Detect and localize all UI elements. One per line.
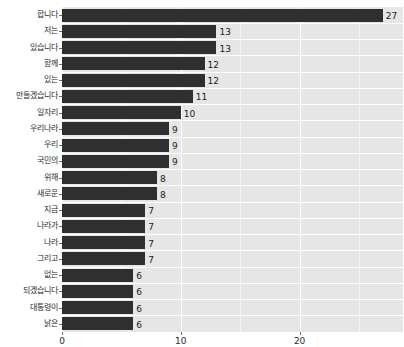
- bar: [62, 285, 133, 298]
- bar: [62, 74, 205, 87]
- bar: [62, 301, 133, 314]
- gridline-horizontal: [62, 104, 403, 105]
- gridline-horizontal: [62, 88, 403, 89]
- bar-value-label: 7: [148, 237, 154, 251]
- bar-value-label: 8: [160, 188, 166, 202]
- bar: [62, 171, 157, 184]
- bar: [62, 220, 145, 233]
- bar-value-label: 11: [196, 90, 207, 104]
- y-axis-tick-label: 나라가: [0, 221, 58, 231]
- bar-value-label: 13: [219, 42, 230, 56]
- bar: [62, 236, 145, 249]
- gridline-horizontal: [62, 218, 403, 219]
- bar: [62, 57, 205, 70]
- y-axis-tick-label: 위해: [0, 173, 58, 183]
- bar: [62, 25, 216, 38]
- gridline-horizontal: [62, 234, 403, 235]
- bar: [62, 252, 145, 265]
- bar: [62, 155, 169, 168]
- bar-value-label: 7: [148, 253, 154, 267]
- bar: [62, 317, 133, 330]
- y-axis-tick-label: 합니다: [0, 10, 58, 20]
- x-axis-tick-mark: [62, 332, 63, 335]
- bar-value-label: 6: [136, 269, 142, 283]
- bar: [62, 204, 145, 217]
- gridline-horizontal: [62, 299, 403, 300]
- x-axis-tick-mark: [181, 332, 182, 335]
- bar-value-label: 6: [136, 318, 142, 332]
- y-axis-tick-label: 만들겠습니다: [0, 91, 58, 101]
- bar-value-label: 12: [208, 58, 219, 72]
- gridline-horizontal: [62, 283, 403, 284]
- gridline-horizontal: [62, 169, 403, 170]
- y-axis-tick-label: 있는: [0, 75, 58, 85]
- bar-value-label: 13: [219, 25, 230, 39]
- bar: [62, 41, 216, 54]
- bar-value-label: 7: [148, 220, 154, 234]
- x-axis-tick-label: 0: [59, 336, 65, 347]
- bar: [62, 9, 383, 22]
- y-axis-tick-label: 국민의: [0, 156, 58, 166]
- bar-value-label: 8: [160, 172, 166, 186]
- y-axis-tick-label: 나라: [0, 238, 58, 248]
- y-axis-tick-label: 낡은: [0, 319, 58, 329]
- x-axis-tick-label: 10: [175, 336, 186, 347]
- bar-value-label: 7: [148, 204, 154, 218]
- x-axis-tick-mark: [300, 332, 301, 335]
- gridline-horizontal: [62, 137, 403, 138]
- gridline-horizontal: [62, 72, 403, 73]
- bar-value-label: 10: [184, 107, 195, 121]
- gridline-horizontal: [62, 120, 403, 121]
- y-axis-tick-label: 함께: [0, 59, 58, 69]
- gridline-horizontal: [62, 39, 403, 40]
- bar-value-label: 6: [136, 302, 142, 316]
- bar-value-label: 9: [172, 123, 178, 137]
- bar: [62, 122, 169, 135]
- gridline-horizontal: [62, 23, 403, 24]
- gridline-horizontal: [62, 202, 403, 203]
- gridline-horizontal: [62, 185, 403, 186]
- bar-value-label: 6: [136, 285, 142, 299]
- gridline-horizontal: [62, 153, 403, 154]
- bar-value-label: 12: [208, 74, 219, 88]
- plot-area: [62, 7, 403, 332]
- y-axis-tick-label: 대통령이: [0, 303, 58, 313]
- y-axis-tick-label: 새로운: [0, 189, 58, 199]
- y-axis-tick-label: 우리나라: [0, 124, 58, 134]
- bar-chart: 합니다저는있습니다함께있는만들겠습니다일자리우리나라우리국민의위해새로운지금나라…: [0, 0, 404, 347]
- y-axis-tick-label: 그리고: [0, 254, 58, 264]
- bar: [62, 106, 181, 119]
- y-axis-tick-label: 없는: [0, 270, 58, 280]
- y-axis-tick-label: 일자리: [0, 108, 58, 118]
- bar: [62, 139, 169, 152]
- y-axis-tick-label: 있습니다: [0, 43, 58, 53]
- bar: [62, 187, 157, 200]
- x-axis-tick-label: 20: [294, 336, 305, 347]
- bar: [62, 90, 193, 103]
- y-axis-tick-label: 지금: [0, 205, 58, 215]
- bar-value-label: 9: [172, 155, 178, 169]
- gridline-horizontal: [62, 315, 403, 316]
- bar-value-label: 9: [172, 139, 178, 153]
- gridline-horizontal: [62, 55, 403, 56]
- y-axis-tick-label: 우리: [0, 140, 58, 150]
- bar-value-label: 27: [386, 9, 397, 23]
- gridline-horizontal: [62, 250, 403, 251]
- y-axis-tick-label: 저는: [0, 26, 58, 36]
- gridline-horizontal: [62, 267, 403, 268]
- chart-title: [62, 0, 383, 3]
- y-axis-tick-label: 되겠습니다: [0, 286, 58, 296]
- bar: [62, 269, 133, 282]
